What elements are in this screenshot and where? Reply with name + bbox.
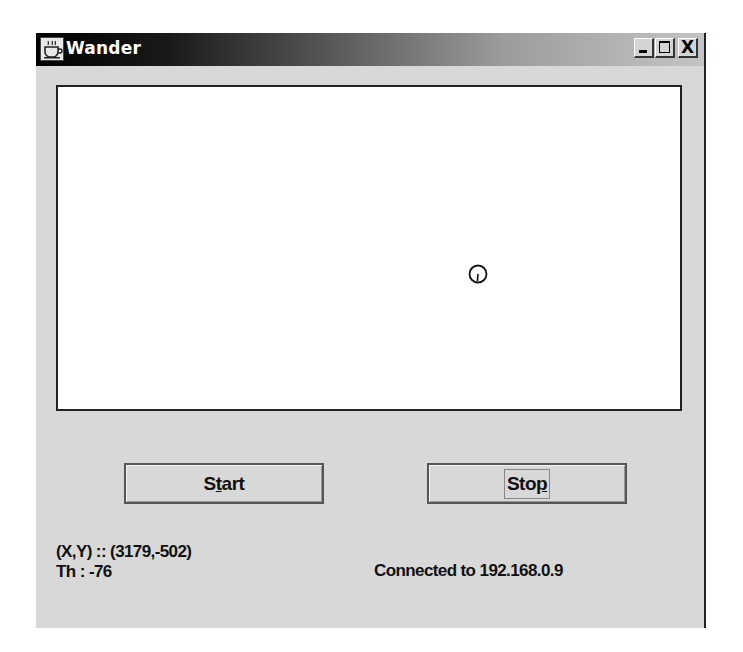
title-bar[interactable]: Wander X (36, 33, 704, 66)
heading-readout: Th : -76 (56, 562, 112, 582)
start-button[interactable]: Start (124, 463, 324, 504)
java-cup-icon[interactable] (40, 37, 64, 61)
stop-button[interactable]: Stop (427, 463, 627, 504)
wander-window: Wander X Start Stop (X,Y) :: (3179,-502)… (36, 33, 706, 628)
connection-status: Connected to 192.168.0.9 (374, 561, 563, 581)
robot-marker-icon (467, 263, 489, 285)
stop-label-mnemonic: p (536, 473, 547, 494)
map-canvas[interactable] (56, 85, 682, 411)
start-label-post: art (222, 473, 245, 494)
start-label-pre: S (204, 473, 216, 494)
maximize-button[interactable] (655, 38, 675, 58)
close-button[interactable]: X (678, 38, 698, 58)
focus-ring: Stop (504, 469, 550, 499)
position-readout: (X,Y) :: (3179,-502) (56, 542, 191, 562)
close-icon: X (681, 37, 694, 57)
minimize-button[interactable] (634, 38, 654, 58)
window-title: Wander (66, 38, 141, 58)
stop-label-pre: Sto (507, 473, 536, 494)
